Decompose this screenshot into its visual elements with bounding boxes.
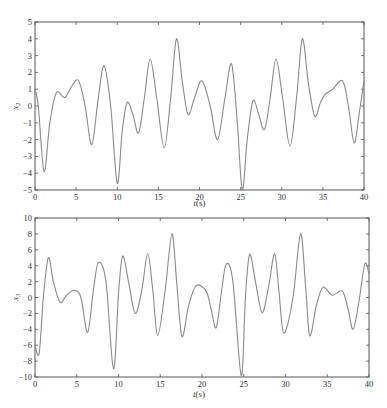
y-axis-ticks: −5−4−3−2−1012345 <box>23 17 364 195</box>
x-tick-label: 5 <box>74 192 78 202</box>
y-tick-label: −4 <box>23 168 33 178</box>
y-tick-label: 6 <box>28 245 32 255</box>
y-tick-label: −6 <box>23 340 32 350</box>
x-tick-label: 10 <box>114 379 123 389</box>
x2-curve <box>35 39 364 191</box>
y-tick-label: −8 <box>23 356 32 366</box>
x3-curve <box>35 234 369 376</box>
y-axis-ticks: −10−8−6−4−20246810 <box>19 213 369 382</box>
y-tick-label: −2 <box>23 135 32 145</box>
x-tick-label: 25 <box>240 379 249 389</box>
y-axis-label: x3 <box>10 293 21 301</box>
y-tick-label: 10 <box>24 213 33 223</box>
y-tick-label: 2 <box>28 277 32 287</box>
y-tick-label: 1 <box>28 84 32 94</box>
x-tick-label: 15 <box>154 192 163 202</box>
y-tick-label: 4 <box>28 261 33 271</box>
y-tick-label: 5 <box>28 17 32 27</box>
x-tick-label: 5 <box>75 379 79 389</box>
x-tick-label: 35 <box>323 379 332 389</box>
y-tick-label: 3 <box>28 51 32 61</box>
plot-x3: −10−8−6−4−20246810 0510152025303540 t(s)… <box>10 213 373 399</box>
x-tick-label: 0 <box>33 379 37 389</box>
figure: −5−4−3−2−1012345 0510152025303540 t(s) x… <box>0 0 387 408</box>
y-tick-label: −5 <box>23 185 32 195</box>
x-tick-label: 15 <box>156 379 165 389</box>
x-tick-label: 20 <box>198 379 207 389</box>
plot-frame <box>35 22 364 190</box>
x-axis-label: t(s) <box>193 389 205 399</box>
y-tick-label: 0 <box>28 293 32 303</box>
y-tick-label: 8 <box>28 229 32 239</box>
x-axis-ticks: 0510152025303540 <box>33 218 373 389</box>
y-tick-label: −4 <box>23 324 33 334</box>
x-tick-label: 30 <box>281 379 290 389</box>
y-axis-label: x2 <box>10 102 21 110</box>
y-tick-label: 4 <box>28 34 33 44</box>
x-axis-label-unit: (s) <box>196 389 206 399</box>
x-axis-label-unit: (s) <box>196 198 206 208</box>
x-tick-label: 10 <box>113 192 122 202</box>
x-tick-label: 40 <box>365 379 374 389</box>
x-axis-label: t(s) <box>193 198 205 208</box>
x-tick-label: 40 <box>360 192 369 202</box>
y-tick-label: −3 <box>23 151 32 161</box>
plot-x2: −5−4−3−2−1012345 0510152025303540 t(s) x… <box>10 17 368 208</box>
x-tick-label: 0 <box>33 192 37 202</box>
x-tick-label: 30 <box>278 192 287 202</box>
y-tick-label: −2 <box>23 308 32 318</box>
y-tick-label: −1 <box>23 118 32 128</box>
x-tick-label: 25 <box>236 192 245 202</box>
y-tick-label: −10 <box>19 372 32 382</box>
y-tick-label: 0 <box>28 101 32 111</box>
x-tick-label: 35 <box>319 192 328 202</box>
y-tick-label: 2 <box>28 67 32 77</box>
